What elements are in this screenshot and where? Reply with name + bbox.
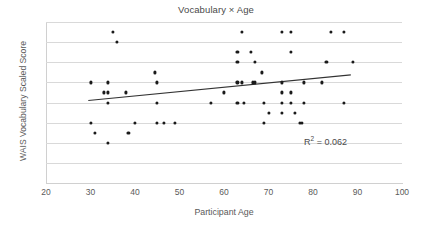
x-axis-tick: 40 [115,187,155,197]
x-axis-label: Participant Age [46,207,402,217]
r-squared-suffix: = 0.062 [314,137,347,147]
trendline [46,22,402,183]
chart-title: Vocabulary × Age [0,4,432,15]
x-axis-tick: 90 [338,187,378,197]
x-axis-line [46,183,403,184]
plot-area [46,22,402,183]
x-axis-tick: 60 [204,187,244,197]
r-squared-annotation: R2 = 0.062 [304,135,347,147]
x-axis-tick: 70 [249,187,289,197]
x-axis-tick: 80 [293,187,333,197]
x-axis-tick: 30 [71,187,111,197]
scatter-chart: Vocabulary × Age WAIS Vocabulary Scaled … [0,0,432,230]
y-axis-label: WAIS Vocabulary Scaled Score [18,16,28,186]
x-axis-tick: 100 [382,187,422,197]
x-axis-tick: 50 [160,187,200,197]
x-axis-tick: 20 [26,187,66,197]
